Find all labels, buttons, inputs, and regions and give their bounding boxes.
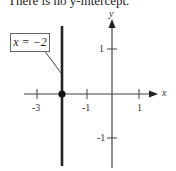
x-axis-arrow-icon	[149, 91, 158, 98]
x-tick-label: -3	[32, 103, 40, 113]
y-axis-arrow-icon	[109, 19, 116, 28]
x-tick-label: -1	[82, 103, 90, 113]
y-axis-label: y	[109, 9, 113, 19]
plot-area	[0, 0, 176, 171]
y-tick-label: -1	[97, 133, 105, 143]
x-intercept-point	[58, 90, 65, 97]
label-leader-line	[44, 50, 61, 73]
y-tick-label: 1	[99, 44, 104, 54]
x-tick-label: 1	[137, 103, 142, 113]
x-axis-label: x	[162, 88, 166, 98]
equation-label: x = −2	[10, 33, 50, 52]
